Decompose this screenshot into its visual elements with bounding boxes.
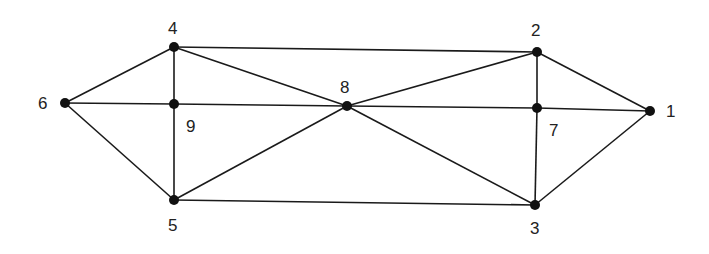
edges-group (65, 47, 650, 205)
node-label-3: 3 (530, 219, 539, 238)
labels-group: 123456789 (38, 19, 675, 238)
edge-4-8 (174, 47, 347, 106)
graph-diagram: 123456789 (0, 0, 709, 254)
node-label-9: 9 (186, 117, 195, 136)
edge-6-9 (65, 103, 174, 104)
edge-7-3 (535, 108, 537, 205)
node-label-1: 1 (666, 102, 675, 121)
edge-7-1 (537, 108, 650, 111)
edge-4-6 (65, 47, 174, 103)
node-label-5: 5 (168, 216, 177, 235)
node-6 (60, 98, 70, 108)
node-label-7: 7 (549, 121, 558, 140)
node-3 (530, 200, 540, 210)
edge-8-3 (347, 106, 535, 205)
edge-5-8 (174, 106, 347, 200)
edge-5-3 (174, 200, 535, 205)
edge-9-8 (174, 104, 347, 106)
node-label-8: 8 (340, 78, 349, 97)
edge-8-7 (347, 106, 537, 108)
edge-8-2 (347, 52, 537, 106)
edge-6-5 (65, 103, 174, 200)
node-9 (169, 99, 179, 109)
edge-2-1 (537, 52, 650, 111)
node-label-2: 2 (531, 21, 540, 40)
node-5 (169, 195, 179, 205)
node-1 (645, 106, 655, 116)
node-2 (532, 47, 542, 57)
node-8 (342, 101, 352, 111)
node-7 (532, 103, 542, 113)
node-4 (169, 42, 179, 52)
node-label-6: 6 (38, 94, 47, 113)
node-label-4: 4 (168, 19, 177, 38)
edge-4-2 (174, 47, 537, 52)
